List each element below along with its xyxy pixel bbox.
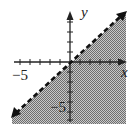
shaded-region [12, 12, 126, 124]
x-tick-label-neg5: −5 [12, 67, 28, 83]
y-tick-label-neg5: −5 [50, 99, 66, 115]
x-axis-label: x [120, 64, 128, 80]
y-axis-label: y [79, 4, 88, 20]
y-axis-arrow-icon [67, 11, 74, 20]
graph: y x −5 −5 [0, 0, 137, 133]
